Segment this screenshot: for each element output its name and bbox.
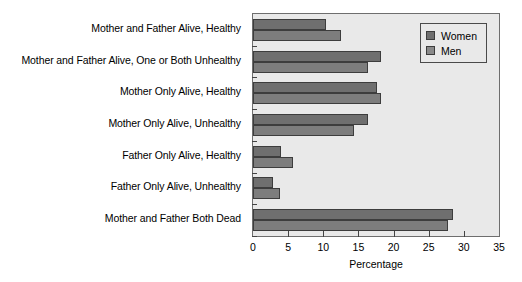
legend-swatch-men-icon — [426, 46, 435, 55]
x-tick-25 — [429, 231, 430, 237]
plot-area: Women Men — [252, 13, 500, 237]
x-tick-30 — [464, 231, 465, 237]
x-tick-10 — [323, 231, 324, 237]
bar-women-1 — [253, 51, 381, 62]
category-label-2: Mother Only Alive, Healthy — [0, 86, 241, 97]
x-tick-label-5: 5 — [285, 241, 291, 253]
bar-men-6 — [253, 220, 448, 231]
x-tick-5 — [288, 231, 289, 237]
bar-women-5 — [253, 177, 273, 188]
chart-figure: Mother and Father Alive, HealthyMother a… — [0, 0, 522, 282]
bar-men-1 — [253, 62, 368, 73]
legend-item-men: Men — [426, 43, 477, 58]
category-label-0: Mother and Father Alive, Healthy — [0, 23, 241, 34]
bar-women-3 — [253, 114, 368, 125]
category-tick-2 — [252, 109, 257, 110]
x-tick-label-10: 10 — [317, 241, 329, 253]
legend-label-men: Men — [441, 45, 461, 57]
x-tick-15 — [358, 231, 359, 237]
category-axis-labels: Mother and Father Alive, HealthyMother a… — [0, 13, 247, 237]
category-label-4: Father Only Alive, Healthy — [0, 150, 241, 161]
bar-women-6 — [253, 209, 453, 220]
bar-women-4 — [253, 146, 281, 157]
category-label-6: Mother and Father Both Dead — [0, 213, 241, 224]
legend-item-women: Women — [426, 28, 477, 43]
bar-women-2 — [253, 82, 377, 93]
x-tick-label-25: 25 — [423, 241, 435, 253]
category-label-3: Mother Only Alive, Unhealthy — [0, 118, 241, 129]
bar-men-3 — [253, 125, 354, 136]
x-tick-label-30: 30 — [458, 241, 470, 253]
x-tick-label-15: 15 — [353, 241, 365, 253]
category-tick-1 — [252, 77, 257, 78]
bar-women-0 — [253, 19, 326, 30]
category-tick-4 — [252, 173, 257, 174]
legend-label-women: Women — [441, 30, 477, 42]
legend-swatch-women-icon — [426, 31, 435, 40]
category-tick-0 — [252, 46, 257, 47]
bar-men-4 — [253, 157, 293, 168]
category-tick-6 — [252, 236, 257, 237]
x-tick-label-35: 35 — [493, 241, 505, 253]
x-tick-label-0: 0 — [250, 241, 256, 253]
category-label-5: Father Only Alive, Unhealthy — [0, 181, 241, 192]
chart-legend: Women Men — [420, 23, 487, 63]
category-label-1: Mother and Father Alive, One or Both Unh… — [0, 55, 241, 66]
x-tick-20 — [394, 231, 395, 237]
x-tick-label-20: 20 — [388, 241, 400, 253]
category-tick-3 — [252, 141, 257, 142]
bar-men-2 — [253, 93, 381, 104]
category-tick-5 — [252, 204, 257, 205]
x-axis-title: Percentage — [252, 258, 500, 270]
bar-men-5 — [253, 188, 280, 199]
bar-men-0 — [253, 30, 341, 41]
